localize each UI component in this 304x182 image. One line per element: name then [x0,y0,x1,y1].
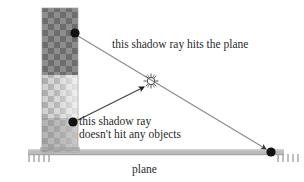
ground-plane-bottom-edge [28,154,284,155]
surface-point-ground [266,147,275,156]
annotation-ray-hits-plane: this shadow ray hits the plane [112,38,248,51]
occluder-box-base-shadow [40,147,80,151]
point-light-icon [144,74,159,89]
plane-caption: plane [132,163,157,176]
ray-tracing-shadow-diagram: this shadow ray hits the plane this shad… [0,0,304,182]
surface-point-lower [68,117,77,126]
surface-point-upper [70,28,79,37]
diagram-canvas [0,0,304,182]
annotation-ray-misses-objects: this shadow ray doesn't hit any objects [79,115,181,141]
annotation-ray-misses-line-2: doesn't hit any objects [79,128,181,141]
annotation-ray-misses-line-1: this shadow ray [79,115,181,128]
